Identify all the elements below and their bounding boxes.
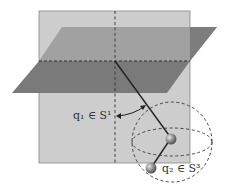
q1-label: q₁ ∈ S¹ xyxy=(73,109,112,122)
q2-label: q₂ ∈ S³ xyxy=(162,162,201,175)
horizontal-plane-back-outside xyxy=(190,27,217,61)
joint-ball-2 xyxy=(146,163,157,174)
pendulum-diagram: q₁ ∈ S¹ q₂ ∈ S³ xyxy=(0,0,228,195)
joint-ball-1 xyxy=(166,134,177,145)
horizontal-plane-front xyxy=(12,61,190,93)
